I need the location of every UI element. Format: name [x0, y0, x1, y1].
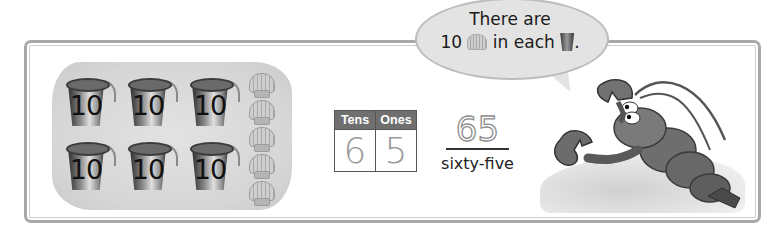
- lobster-icon: [540, 70, 750, 212]
- bubble-count: 10: [440, 32, 462, 52]
- bucket-label: 10: [130, 154, 166, 185]
- place-value-table: Tens Ones 6 5: [334, 110, 417, 172]
- shell-icon: [247, 127, 275, 151]
- tens-value: 6: [335, 130, 376, 172]
- bucket-icon: 10: [186, 140, 242, 198]
- bucket-label: 10: [68, 154, 104, 185]
- ones-value: 5: [376, 130, 417, 172]
- bucket-icon: 10: [62, 140, 118, 198]
- bucket-label: 10: [192, 90, 228, 121]
- lobster-illustration: [540, 70, 750, 212]
- bubble-period: .: [574, 32, 579, 52]
- bucket-icon: [560, 33, 574, 51]
- bubble-line-2: 10 in each .: [415, 31, 605, 54]
- numeral: 65: [440, 110, 515, 148]
- shell-icon: [247, 100, 275, 124]
- bucket-icon: 10: [124, 140, 180, 198]
- bucket-icon: 10: [62, 76, 118, 134]
- bucket-label: 10: [130, 90, 166, 121]
- shell-icon: [467, 34, 487, 50]
- shell-icon: [247, 73, 275, 97]
- bucket-icon: 10: [186, 76, 242, 134]
- shell-icon: [247, 181, 275, 205]
- bucket-label: 10: [192, 154, 228, 185]
- ones-header: Ones: [376, 111, 417, 130]
- tens-header: Tens: [335, 111, 376, 130]
- bucket-grid: 10 10 10 10 10 10: [62, 76, 242, 198]
- number-answer: 65 sixty-five: [440, 110, 515, 173]
- number-word: sixty-five: [440, 154, 515, 173]
- shell-column: [247, 73, 275, 205]
- bubble-line-1: There are: [415, 8, 605, 31]
- bucket-icon: 10: [124, 76, 180, 134]
- bubble-in-each: in each: [493, 32, 555, 52]
- shell-icon: [247, 154, 275, 178]
- bucket-label: 10: [68, 90, 104, 121]
- speech-bubble-text: There are 10 in each .: [415, 8, 605, 54]
